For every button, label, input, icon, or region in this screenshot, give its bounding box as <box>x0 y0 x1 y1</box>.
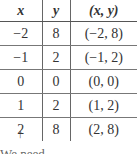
cell-y: 8 <box>42 22 70 46</box>
cell-point: (−1, 2) <box>70 46 137 70</box>
header-y: y <box>42 0 70 22</box>
cell-point: (−2, 8) <box>70 22 137 46</box>
cell-point: (1, 2) <box>70 94 137 118</box>
cell-y: 8 <box>42 118 70 142</box>
caption-text: We need <box>0 146 45 154</box>
cell-point: (0, 0) <box>70 70 137 94</box>
header-row: x y (x, y) <box>0 0 137 22</box>
table-row: −2 8 (−2, 8) <box>0 22 137 46</box>
values-table: x y (x, y) −2 8 (−2, 8) −1 2 (−1, 2) 0 0… <box>0 0 137 141</box>
table-row: 0 0 (0, 0) <box>0 70 137 94</box>
cell-y: 2 <box>42 94 70 118</box>
cell-y: 0 <box>42 70 70 94</box>
header-xy: (x, y) <box>70 0 137 22</box>
cell-point: (2, 8) <box>70 118 137 142</box>
cell-y: 2 <box>42 46 70 70</box>
table-row: 1 2 (1, 2) <box>0 94 137 118</box>
cell-x: 0 <box>0 70 42 94</box>
header-x: x <box>0 0 42 22</box>
cell-x: −2 <box>0 22 42 46</box>
cell-x: −1 <box>0 46 42 70</box>
table-row: −1 2 (−1, 2) <box>0 46 137 70</box>
up-arrow-icon: ↑ <box>17 128 23 140</box>
cell-x: 1 <box>0 94 42 118</box>
